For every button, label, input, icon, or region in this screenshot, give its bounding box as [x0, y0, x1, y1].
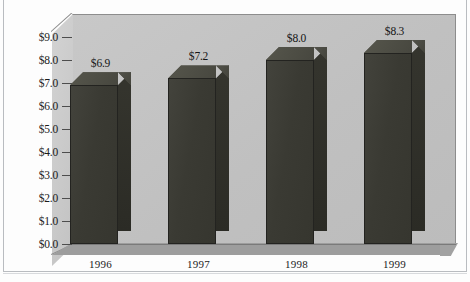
bar-1997[interactable] [168, 78, 216, 244]
chart-axis-baseline [72, 244, 456, 245]
bar-value-label: $8.3 [365, 25, 425, 37]
y-axis-tick: $4.0 [8, 145, 72, 159]
bar-value-label: $8.0 [267, 32, 327, 44]
bar-front-face [266, 60, 314, 244]
bar-front-face [70, 85, 118, 244]
y-axis-tick-label: $4.0 [39, 145, 58, 159]
y-axis-tick-label: $8.0 [39, 53, 58, 67]
y-axis-tick-label: $3.0 [39, 168, 58, 182]
y-axis-tick: $0.0 [8, 237, 72, 251]
y-axis-tick-label: $0.0 [39, 237, 58, 251]
y-axis-tick: $7.0 [8, 76, 72, 90]
bar-side-face [412, 40, 425, 231]
bar-1998[interactable] [266, 60, 314, 244]
y-axis-tick: $5.0 [8, 122, 72, 136]
bar-value-label: $6.9 [71, 57, 131, 69]
x-axis-label-1997: 1997 [159, 258, 239, 270]
bar-side-face [118, 72, 131, 231]
y-axis-tick-label: $5.0 [39, 122, 58, 136]
bar-front-face [364, 53, 412, 244]
x-axis-label-1999: 1999 [355, 258, 435, 270]
y-axis-tick: $9.0 [8, 30, 72, 44]
y-axis-tick-label: $9.0 [39, 30, 58, 44]
chart-screenshot: $9.0$8.0$7.0$6.0$5.0$4.0$3.0$2.0$1.0$0.0… [0, 0, 470, 282]
bar-chart-plot-area: $9.0$8.0$7.0$6.0$5.0$4.0$3.0$2.0$1.0$0.0… [0, 0, 470, 282]
bar-value-label: $7.2 [169, 50, 229, 62]
y-axis-tick: $8.0 [8, 53, 72, 67]
y-axis-tick-mark [62, 244, 72, 245]
y-axis-tick-mark [62, 37, 72, 38]
x-axis-label-1996: 1996 [61, 258, 141, 270]
y-axis-tick: $3.0 [8, 168, 72, 182]
y-axis-tick-label: $1.0 [39, 214, 58, 228]
bar-front-face [168, 78, 216, 244]
y-axis-tick-label: $7.0 [39, 76, 58, 90]
bar-side-face [314, 47, 327, 231]
y-axis-tick-label: $2.0 [39, 191, 58, 205]
y-axis-tick: $2.0 [8, 191, 72, 205]
y-axis-tick: $6.0 [8, 99, 72, 113]
bar-1996[interactable] [70, 85, 118, 244]
y-axis-tick-mark [62, 83, 72, 84]
bar-side-face [216, 65, 229, 231]
y-axis-tick-label: $6.0 [39, 99, 58, 113]
y-axis-tick: $1.0 [8, 214, 72, 228]
bar-1999[interactable] [364, 53, 412, 244]
x-axis-label-1998: 1998 [257, 258, 337, 270]
